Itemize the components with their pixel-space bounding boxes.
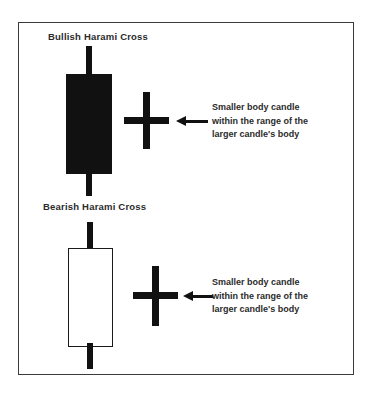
harami-cross-diagram: Bullish Harami Cross Smaller body candle… [0, 0, 371, 393]
annotation-line-1: Smaller body candle [212, 276, 308, 290]
lower-wick [86, 172, 92, 196]
annotation-line-2: within the range of the [212, 115, 308, 129]
annotation-line-3: larger candle's body [212, 128, 308, 142]
bullish-callout-arrow [176, 116, 208, 127]
filled-candle-body [66, 74, 112, 174]
bullish-section-title: Bullish Harami Cross [48, 31, 148, 42]
doji-horizontal-bar [124, 117, 169, 124]
annotation-line-2: within the range of the [212, 290, 308, 304]
arrow-shaft [191, 295, 213, 297]
annotation-line-3: larger candle's body [212, 303, 308, 317]
bearish-section-title: Bearish Harami Cross [43, 201, 146, 212]
arrow-shaft [184, 120, 208, 122]
doji-horizontal-bar [133, 292, 178, 299]
hollow-candle-body [68, 248, 113, 347]
annotation-line-1: Smaller body candle [212, 101, 308, 115]
bearish-callout-arrow [183, 291, 213, 302]
upper-wick [86, 46, 92, 76]
bullish-annotation-text: Smaller body candle within the range of … [212, 101, 308, 142]
bearish-annotation-text: Smaller body candle within the range of … [212, 276, 308, 317]
lower-wick [87, 343, 93, 369]
